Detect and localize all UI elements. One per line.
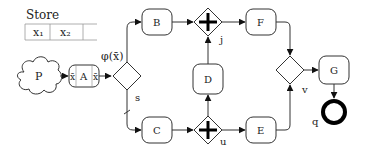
node-A-right-mark: x̄ — [93, 72, 98, 82]
node-F-label: F — [257, 17, 264, 28]
node-A-task[interactable]: x̄ A x̄ — [69, 65, 99, 87]
node-D-label: D — [204, 74, 212, 85]
node-F-task[interactable]: F — [246, 9, 276, 35]
node-E-task[interactable]: E — [246, 117, 276, 143]
store-title: Store — [26, 8, 59, 22]
process-diagram: Store x₁ x₂ P x̄ A x̄ s φ(x̄) B — [0, 0, 367, 155]
node-G-task[interactable]: G — [319, 56, 349, 84]
node-u-gateway[interactable]: u — [194, 116, 227, 147]
node-C-task[interactable]: C — [142, 117, 172, 143]
node-q-label: q — [312, 116, 319, 127]
node-v-label: v — [301, 84, 308, 95]
node-A-label: A — [79, 71, 88, 82]
node-E-label: E — [257, 125, 264, 136]
store: Store x₁ x₂ — [25, 8, 97, 40]
node-j-label: j — [219, 34, 223, 45]
node-v-gateway[interactable]: v — [276, 56, 308, 95]
node-C-label: C — [153, 125, 161, 136]
store-cell-x2: x₂ — [60, 26, 71, 39]
node-j-gateway[interactable]: j — [194, 8, 223, 45]
node-B-label: B — [153, 17, 160, 28]
node-A-left-mark: x̄ — [70, 72, 75, 82]
node-q-end-event[interactable]: q — [312, 101, 345, 127]
store-cell-x1: x₁ — [33, 26, 44, 39]
node-G-label: G — [330, 65, 338, 76]
node-D-task[interactable]: D — [193, 64, 223, 94]
node-P-cloud[interactable]: P — [17, 57, 61, 94]
node-s-label: s — [135, 92, 140, 103]
node-B-task[interactable]: B — [142, 9, 172, 35]
condition-label: φ(x̄) — [101, 50, 124, 63]
node-u-label: u — [220, 136, 227, 147]
node-P-label: P — [35, 70, 43, 83]
